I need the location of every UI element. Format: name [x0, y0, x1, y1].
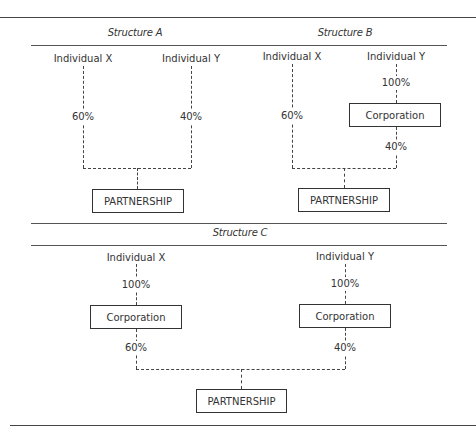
c-individual-y: Individual Y — [314, 251, 376, 263]
c-individual-x: Individual X — [105, 252, 168, 264]
a-individual-y: Individual Y — [160, 53, 222, 65]
b-corporation-box: Corporation — [349, 103, 441, 127]
b-individual-x: Individual X — [261, 51, 324, 63]
c-corp-right-percentage: 40% — [333, 341, 357, 355]
b-corporation-label: Corporation — [365, 110, 424, 121]
structure-c-title: Structure C — [213, 227, 268, 238]
b-x-percentage: 60% — [280, 109, 304, 123]
c-corporation-right-label: Corporation — [315, 311, 374, 322]
a-partnership-box: PARTNERSHIP — [92, 189, 184, 213]
structure-b-title: Structure B — [318, 27, 373, 38]
c-corp-left-percentage: 60% — [124, 341, 148, 355]
c-partnership-box: PARTNERSHIP — [196, 389, 287, 413]
b-corp-percentage: 40% — [384, 140, 408, 154]
a-partnership-label: PARTNERSHIP — [104, 196, 172, 207]
top-border-rule — [0, 17, 476, 18]
b-partnership-label: PARTNERSHIP — [310, 195, 378, 206]
c-corporation-right-box: Corporation — [299, 304, 391, 328]
header-rule-ab — [31, 45, 447, 46]
structure-a-title: Structure A — [108, 27, 163, 38]
c-x-to-corp-percentage: 100% — [121, 278, 152, 292]
b-partnership-box: PARTNERSHIP — [298, 188, 390, 212]
section-divider-top — [31, 223, 447, 224]
c-partnership-label: PARTNERSHIP — [207, 396, 275, 407]
b-individual-y: Individual Y — [365, 51, 427, 63]
c-y-to-corp-percentage: 100% — [330, 277, 361, 291]
a-individual-x: Individual X — [52, 53, 115, 65]
c-corporation-left-label: Corporation — [106, 312, 165, 323]
a-x-percentage: 60% — [71, 110, 95, 124]
b-partnership-connector — [344, 168, 345, 188]
a-partnership-connector — [137, 168, 138, 189]
b-y-to-corp-percentage: 100% — [381, 76, 412, 90]
c-corporation-left-box: Corporation — [90, 305, 182, 329]
a-y-percentage: 40% — [179, 110, 203, 124]
bottom-border-rule — [10, 425, 476, 426]
c-partnership-connector — [241, 369, 242, 389]
header-rule-c — [31, 245, 447, 246]
